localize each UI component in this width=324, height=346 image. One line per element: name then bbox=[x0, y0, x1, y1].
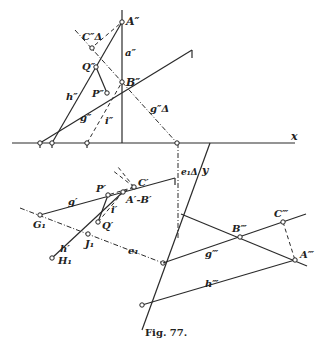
point-b3 bbox=[238, 235, 242, 239]
ground-point-1 bbox=[38, 141, 42, 145]
label-a2: A″ bbox=[125, 15, 140, 28]
figure-caption: Fig. 77. bbox=[145, 327, 187, 338]
point-c2-delta bbox=[90, 46, 94, 50]
point-h1 bbox=[50, 256, 54, 260]
label-i2: i″ bbox=[105, 115, 114, 126]
label-g2-delta: g″Δ bbox=[150, 103, 169, 114]
point-p2 bbox=[105, 91, 109, 95]
label-g1-point: G₁ bbox=[33, 219, 46, 230]
point-a1-b1 bbox=[121, 190, 125, 194]
point-c1 bbox=[132, 185, 136, 189]
label-p1: P′ bbox=[95, 183, 107, 194]
point-c3 bbox=[281, 220, 285, 224]
label-e1-delta: e₁Δ bbox=[181, 167, 198, 177]
line-c1-up-1 bbox=[112, 170, 134, 187]
label-q2: Q″ bbox=[82, 61, 96, 72]
label-h3: h‴ bbox=[205, 278, 219, 289]
point-b2 bbox=[120, 80, 124, 84]
point-a2 bbox=[120, 20, 124, 24]
label-h1-point: H₁ bbox=[57, 255, 72, 266]
label-a1-b1: A′-B′ bbox=[125, 194, 152, 205]
label-g3: g‴ bbox=[205, 248, 219, 259]
x-axis-label: x bbox=[290, 130, 298, 143]
label-h2: h″ bbox=[66, 91, 78, 102]
label-h1-line: h′ bbox=[60, 243, 70, 254]
label-q1: Q′ bbox=[102, 220, 114, 231]
label-p2: P″ bbox=[91, 88, 105, 99]
geometry-figure: x y A″ B″ C″Δ Q″ P″ a″ h″ g″ i″ g″Δ e₁Δ bbox=[0, 0, 324, 346]
ground-point-4 bbox=[175, 141, 179, 145]
label-b2: B″ bbox=[125, 76, 140, 89]
point-q1 bbox=[96, 220, 100, 224]
point-p1 bbox=[106, 193, 110, 197]
line-c3-a3 bbox=[283, 222, 295, 260]
line-a3-b3 bbox=[181, 214, 307, 266]
line-g2 bbox=[40, 50, 192, 143]
ground-point-3 bbox=[85, 141, 89, 145]
label-g1-line: g′ bbox=[68, 196, 78, 207]
point-j1 bbox=[86, 232, 90, 236]
label-j1: J₁ bbox=[83, 238, 94, 249]
label-c1: C′ bbox=[138, 177, 149, 188]
label-a2-line: a″ bbox=[125, 47, 136, 58]
point-h3-y bbox=[140, 303, 144, 307]
point-a3 bbox=[293, 258, 297, 262]
label-g2: g″ bbox=[80, 112, 92, 123]
label-e1: e₁ bbox=[128, 245, 139, 256]
label-b3: B‴ bbox=[231, 223, 247, 234]
point-g1 bbox=[38, 213, 42, 217]
label-c3: C‴ bbox=[274, 208, 289, 219]
y-axis-label: y bbox=[201, 164, 210, 177]
ground-point-2 bbox=[50, 141, 54, 145]
label-a3: A‴ bbox=[299, 249, 315, 260]
label-i1: i′ bbox=[111, 204, 118, 215]
label-c2-delta: C″Δ bbox=[82, 31, 102, 42]
